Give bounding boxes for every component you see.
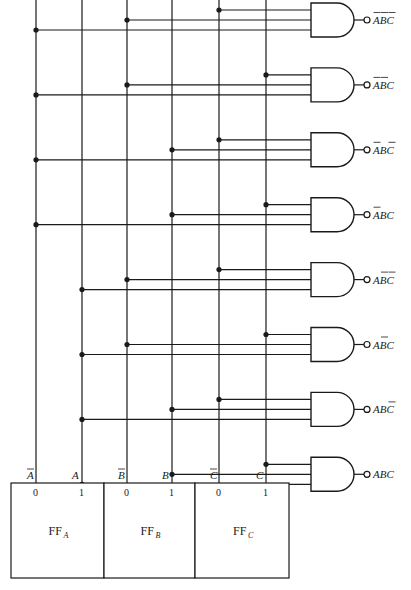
junction-dot <box>216 267 221 272</box>
junction-dot <box>124 82 129 87</box>
and-gate <box>311 263 354 297</box>
junction-dot <box>79 287 84 292</box>
pin-number: 1 <box>79 487 84 498</box>
junction-dot <box>216 397 221 402</box>
junction-dot <box>263 332 268 337</box>
output-signal-label: A <box>26 469 34 481</box>
output-signal-label: C <box>256 469 264 481</box>
junction-dot <box>33 92 38 97</box>
output-terminal <box>364 406 370 412</box>
gate-output-label: ABC <box>372 274 394 286</box>
output-terminal <box>364 82 370 88</box>
junction-dot <box>124 277 129 282</box>
pin-number: 0 <box>33 487 38 498</box>
flip-flop-blocks: FFA0A1AFFB0B1BFFC0C1C <box>11 469 289 578</box>
output-signal-label: A <box>71 469 79 481</box>
output-signal-label: B <box>118 469 125 481</box>
junction-dot <box>79 417 84 422</box>
gate-output-label: ABC <box>372 339 394 351</box>
output-signal-label: B <box>162 469 169 481</box>
ff-subscript: B <box>156 531 161 540</box>
gate-output-label: ABC <box>372 468 394 480</box>
junction-dot <box>169 407 174 412</box>
and-gates: ABCABCABCABCABCABCABCABC <box>311 3 396 491</box>
output-terminal <box>364 147 370 153</box>
and-gate <box>311 457 354 491</box>
junction-dot <box>216 137 221 142</box>
and-gate <box>311 328 354 362</box>
gate-output-label: ABC <box>372 14 394 26</box>
and-gate <box>311 198 354 232</box>
junction-dot <box>263 462 268 467</box>
gate-output-label: ABC <box>372 403 394 415</box>
output-terminal <box>364 277 370 283</box>
junction-dot <box>33 157 38 162</box>
output-terminal <box>364 471 370 477</box>
junction-dot <box>33 222 38 227</box>
junction-dot <box>263 72 268 77</box>
ff-subscript: C <box>248 531 254 540</box>
pin-number: 1 <box>169 487 174 498</box>
and-gate <box>311 133 354 167</box>
output-signal-label: C <box>210 469 218 481</box>
gate-output-label: ABC <box>372 209 394 221</box>
gate-output-label: ABC <box>372 144 394 156</box>
output-terminal <box>364 17 370 23</box>
junction-dot <box>169 147 174 152</box>
pin-number: 0 <box>124 487 129 498</box>
junction-dot <box>33 27 38 32</box>
pin-number: 1 <box>263 487 268 498</box>
ff-subscript: A <box>63 531 69 540</box>
junction-dot <box>169 212 174 217</box>
junction-dot <box>124 342 129 347</box>
output-terminal <box>364 342 370 348</box>
pin-number: 0 <box>216 487 221 498</box>
junction-dot <box>124 17 129 22</box>
junction-dot <box>169 472 174 477</box>
gate-output-label: ABC <box>372 79 394 91</box>
junction-dot <box>79 352 84 357</box>
ff-label: FF <box>49 524 63 538</box>
ff-label: FF <box>141 524 155 538</box>
decoder-diagram: ABCABCABCABCABCABCABCABC FFA0A1AFFB0B1BF… <box>0 0 411 590</box>
ff-label: FF <box>233 524 247 538</box>
bus-lines <box>36 0 266 483</box>
output-terminal <box>364 212 370 218</box>
and-gate <box>311 392 354 426</box>
and-gate <box>311 3 354 37</box>
junction-dot <box>263 202 268 207</box>
junction-dot <box>216 7 221 12</box>
and-gate <box>311 68 354 102</box>
